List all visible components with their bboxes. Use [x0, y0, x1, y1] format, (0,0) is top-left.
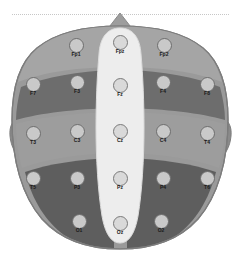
- electrode-label-fp2: Fp2: [160, 51, 169, 57]
- electrode-oz[interactable]: Oz: [113, 216, 128, 231]
- electrode-p3[interactable]: P3: [70, 171, 85, 186]
- electrode-label-fpz: Fpz: [116, 48, 125, 54]
- electrode-label-t5: T5: [30, 184, 36, 190]
- electrode-pz[interactable]: Pz: [113, 171, 128, 186]
- electrode-fp1[interactable]: Fp1: [69, 38, 84, 53]
- electrode-label-p4: P4: [160, 184, 166, 190]
- electrode-label-f3: F3: [74, 88, 80, 94]
- electrode-label-t6: T6: [204, 184, 210, 190]
- electrode-fpz[interactable]: Fpz: [113, 35, 128, 50]
- electrode-fz[interactable]: Fz: [113, 78, 128, 93]
- electrode-label-c3: C3: [74, 137, 80, 143]
- electrode-label-c4: C4: [160, 137, 166, 143]
- electrode-t6[interactable]: T6: [200, 171, 215, 186]
- electrode-f4[interactable]: F4: [156, 75, 171, 90]
- electrode-label-p3: P3: [74, 184, 80, 190]
- electrode-f3[interactable]: F3: [70, 75, 85, 90]
- electrode-o1[interactable]: O1: [72, 214, 87, 229]
- electrode-label-f4: F4: [160, 88, 166, 94]
- eeg-electrode-diagram: Fp1FpzFp2F7F3FzF4F8T3C3CzC4T4T5P3PzP4T6O…: [0, 0, 241, 253]
- electrode-p4[interactable]: P4: [156, 171, 171, 186]
- electrode-label-f7: F7: [30, 90, 36, 96]
- electrode-t3[interactable]: T3: [26, 126, 41, 141]
- electrode-label-fz: Fz: [117, 91, 123, 97]
- electrode-o2[interactable]: O2: [154, 214, 169, 229]
- electrode-fp2[interactable]: Fp2: [157, 38, 172, 53]
- electrode-f7[interactable]: F7: [26, 77, 41, 92]
- electrode-label-t4: T4: [204, 139, 210, 145]
- electrode-c3[interactable]: C3: [70, 124, 85, 139]
- electrode-t4[interactable]: T4: [200, 126, 215, 141]
- electrode-label-cz: Cz: [117, 137, 123, 143]
- electrode-label-o1: O1: [76, 227, 83, 233]
- electrode-label-fp1: Fp1: [72, 51, 81, 57]
- electrode-label-pz: Pz: [117, 184, 123, 190]
- electrode-f8[interactable]: F8: [200, 77, 215, 92]
- electrode-cz[interactable]: Cz: [113, 124, 128, 139]
- electrode-c4[interactable]: C4: [156, 124, 171, 139]
- electrode-label-t3: T3: [30, 139, 36, 145]
- electrode-label-f8: F8: [204, 90, 210, 96]
- electrode-t5[interactable]: T5: [26, 171, 41, 186]
- electrode-label-o2: O2: [158, 227, 165, 233]
- electrode-label-oz: Oz: [117, 229, 123, 235]
